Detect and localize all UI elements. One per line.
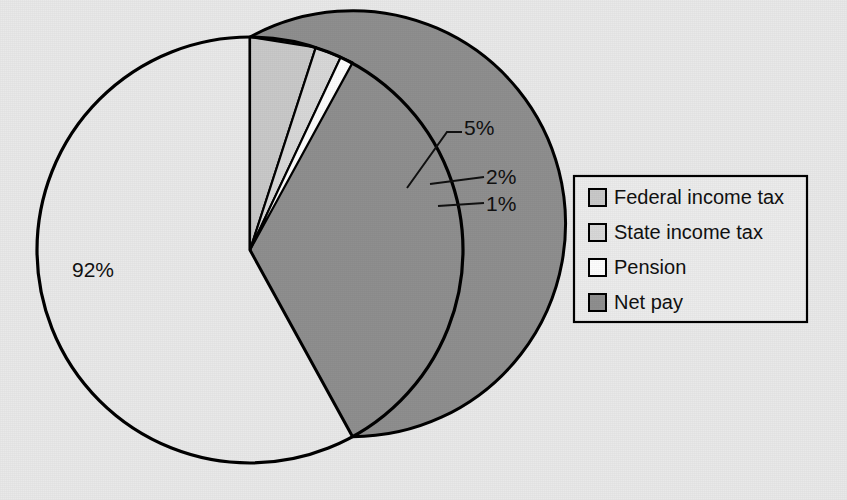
legend-label-net-pay: Net pay (614, 291, 683, 313)
legend-label-federal-income-tax: Federal income tax (614, 186, 784, 208)
pie-label-net-pay: 92% (72, 258, 114, 281)
legend-label-state-income-tax: State income tax (614, 221, 763, 243)
pie-label-state: 2% (486, 165, 516, 188)
legend-item-federal-income-tax[interactable]: Federal income tax (589, 186, 784, 208)
pie-label-pension: 1% (486, 192, 516, 215)
legend-item-state-income-tax[interactable]: State income tax (589, 221, 763, 243)
legend-swatch-pension (589, 259, 606, 276)
legend-label-pension: Pension (614, 256, 686, 278)
chart-legend: Federal income tax State income tax Pens… (574, 176, 807, 322)
legend-swatch-state-income-tax (589, 224, 606, 241)
legend-item-net-pay[interactable]: Net pay (589, 291, 683, 313)
legend-swatch-federal-income-tax (589, 189, 606, 206)
pie-label-federal: 5% (464, 116, 494, 139)
legend-item-pension[interactable]: Pension (589, 256, 686, 278)
chart-canvas: 5% 2% 1% 92% Federal income tax State in… (0, 0, 847, 500)
pie-chart-figure: 5% 2% 1% 92% Federal income tax State in… (0, 0, 847, 500)
legend-swatch-net-pay (589, 294, 606, 311)
